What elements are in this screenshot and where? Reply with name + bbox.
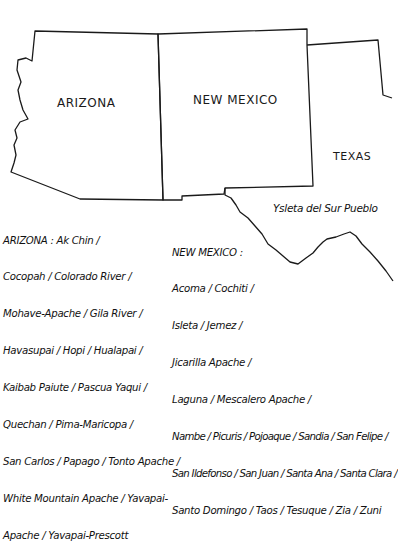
list-line: Cocopah / Colorado River / — [3, 271, 180, 283]
list-line: Nambe / Picuris / Pojoaque / Sandia / Sa… — [172, 431, 397, 443]
list-line: San Carlos / Papago / Tonto Apache / — [3, 456, 180, 468]
list-line: NEW MEXICO : — [172, 247, 397, 259]
list-line: ARIZONA : Ak Chin / — [3, 235, 180, 247]
list-line: Laguna / Mescalero Apache / — [172, 394, 397, 406]
texas-border — [307, 40, 392, 98]
list-line: Kaibab Paiute / Pascua Yaqui / — [3, 382, 180, 394]
list-line: Mohave-Apache / Gila River / — [3, 308, 180, 320]
state-label-texas: TEXAS — [333, 150, 371, 163]
new-mexico-border — [158, 29, 313, 200]
list-line: Havasupai / Hopi / Hualapai / — [3, 345, 180, 357]
state-label-arizona: ARIZONA — [57, 96, 115, 110]
list-line: Isleta / Jemez / — [172, 320, 397, 332]
list-line: Jicarilla Apache / — [172, 357, 397, 369]
list-line: Quechan / Pima-Maricopa / — [3, 419, 180, 431]
arizona-border — [11, 31, 163, 200]
list-line: Apache / Yavapai-Prescott — [3, 530, 180, 542]
arizona-tribes-list: ARIZONA : Ak Chin / Cocopah / Colorado R… — [3, 210, 180, 545]
new-mexico-tribes-list: NEW MEXICO : Acoma / Cochiti / Isleta / … — [172, 222, 397, 529]
ysleta-del-sur-pueblo-label: Ysleta del Sur Pueblo — [273, 202, 378, 214]
list-line: Acoma / Cochiti / — [172, 283, 397, 295]
state-label-new-mexico: NEW MEXICO — [193, 93, 278, 107]
list-line: San Ildefonso / San Juan / Santa Ana / S… — [172, 468, 397, 480]
list-line: White Mountain Apache / Yavapai- — [3, 493, 180, 505]
list-line: Santo Domingo / Taos / Tesuque / Zia / Z… — [172, 505, 397, 517]
